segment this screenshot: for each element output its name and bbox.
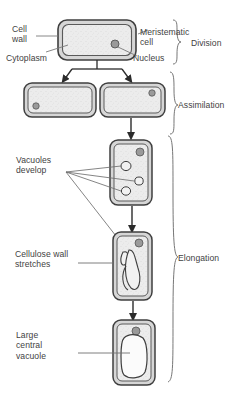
label-cytoplasm: Cytoplasm [6, 53, 47, 63]
nucleus [136, 148, 144, 156]
stage-label-elongation: Elongation [178, 253, 219, 263]
cell-elongating [113, 232, 152, 300]
nucleus [132, 327, 140, 335]
cell-vacuolating [110, 140, 152, 205]
cell-meristematic [58, 20, 136, 60]
stage-label-division: Division [191, 38, 222, 48]
label-nucleus: Nucleus [133, 53, 164, 63]
nucleus [149, 90, 155, 96]
brace-elongation [168, 136, 178, 382]
division-arrows [64, 60, 130, 80]
label-cell-wall: Cell wall [12, 24, 27, 45]
nucleus [111, 40, 119, 48]
division-arrow-left [64, 69, 72, 80]
vacuole-1 [121, 161, 131, 170]
vacuole-2 [135, 177, 143, 185]
cell-mature [113, 320, 155, 385]
label-cellulose-wall-stretches: Cellulose wall stretches [15, 249, 68, 270]
cell-development-diagram: Cell wall Cytoplasm Meristematic cell Nu… [0, 0, 232, 394]
cell-daughter-right [100, 83, 165, 117]
nucleus [33, 103, 39, 109]
label-large-central-vacuole: Large central vacuole [16, 330, 46, 361]
division-arrow-right [122, 69, 130, 80]
label-meristematic-cell: Meristematic cell [140, 27, 189, 48]
stage-label-assimilation: Assimilation [178, 100, 224, 110]
large-central-vacuole [121, 335, 147, 378]
cell-daughter-left [24, 83, 96, 117]
stage-braces [168, 20, 181, 382]
nucleus [135, 239, 143, 247]
cytoplasm-region [63, 25, 132, 56]
label-vacuoles-develop: Vacuoles develop [16, 155, 51, 176]
vacuole-3 [121, 187, 130, 195]
brace-assimilation [170, 72, 178, 134]
